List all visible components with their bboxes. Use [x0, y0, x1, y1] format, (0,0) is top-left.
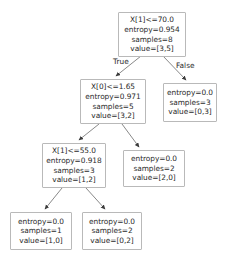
edge-label-false: False [176, 61, 195, 70]
node-value: value=[3,2] [91, 111, 134, 121]
node-entropy: entropy=0.0 [131, 154, 177, 164]
node-value: value=[0,3] [168, 107, 211, 117]
node-entropy: entropy=0.0 [89, 217, 135, 227]
edge-left1-to-right2 [122, 124, 139, 147]
node-value: value=[1,2] [52, 175, 95, 185]
edge-left1-to-left2 [79, 124, 99, 140]
tree-node-left-1[interactable]: X[0]<=1.65 entropy=0.971 samples=5 value… [80, 79, 146, 124]
tree-node-right-2[interactable]: entropy=0.0 samples=2 value=[2,0] [123, 150, 185, 187]
decision-tree-diagram: X[1]<=70.0 entropy=0.954 samples=8 value… [0, 0, 232, 259]
tree-node-root[interactable]: X[1]<=70.0 entropy=0.954 samples=8 value… [118, 12, 186, 57]
node-entropy: entropy=0.0 [18, 217, 64, 227]
node-samples: samples=2 [133, 164, 174, 174]
node-value: value=[3,5] [130, 44, 173, 54]
node-samples: samples=5 [92, 102, 133, 112]
node-samples: samples=2 [91, 226, 132, 236]
node-entropy: entropy=0.954 [124, 25, 179, 35]
node-samples: samples=3 [169, 98, 210, 108]
tree-node-leaf-left[interactable]: entropy=0.0 samples=1 value=[1,0] [10, 212, 72, 250]
edge-left2-to-leafright [86, 188, 105, 209]
edge-label-true: True [113, 57, 129, 66]
tree-node-leaf-right[interactable]: entropy=0.0 samples=2 value=[0,2] [82, 212, 142, 250]
node-value: value=[0,2] [90, 236, 133, 246]
tree-node-right-1[interactable]: entropy=0.0 samples=3 value=[0,3] [163, 83, 217, 122]
node-entropy: entropy=0.971 [85, 92, 140, 102]
node-value: value=[2,0] [132, 173, 175, 183]
node-samples: samples=8 [131, 35, 172, 45]
node-value: value=[1,0] [19, 236, 62, 246]
node-samples: samples=1 [20, 226, 61, 236]
node-entropy: entropy=0.0 [167, 88, 213, 98]
node-condition: X[1]<=70.0 [130, 15, 174, 25]
tree-node-left-2[interactable]: X[1]<=55.0 entropy=0.918 samples=3 value… [42, 143, 106, 188]
node-entropy: entropy=0.918 [46, 156, 101, 166]
edge-left2-to-leafleft [45, 188, 62, 209]
node-samples: samples=3 [53, 166, 94, 176]
node-condition: X[1]<=55.0 [52, 146, 96, 156]
node-condition: X[0]<=1.65 [91, 82, 135, 92]
